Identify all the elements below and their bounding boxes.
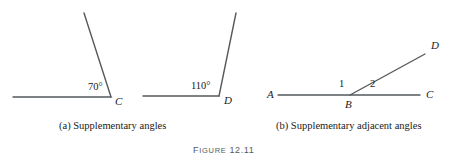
point-label-c-left: C xyxy=(115,96,122,107)
subcaption-b: (b) Supplementary adjacent angles xyxy=(276,120,422,131)
figure-12-11: 70° C 110° D (a) Supplementary angles A … xyxy=(0,0,462,159)
angle-number-1: 1 xyxy=(339,79,344,90)
angle-number-2: 2 xyxy=(370,79,375,90)
angle-measure-110: 110° xyxy=(191,81,211,92)
point-label-d-right: D xyxy=(431,40,439,51)
ray-slanted-vertex-d xyxy=(219,13,236,96)
point-label-a: A xyxy=(267,89,274,100)
subcaption-a: (a) Supplementary angles xyxy=(59,120,166,131)
geometry-drawing xyxy=(0,0,462,159)
figure-caption: FIGURE12.11 xyxy=(193,139,254,157)
point-label-b: B xyxy=(345,99,352,110)
ray-b-to-d xyxy=(350,54,425,95)
point-label-c-right: C xyxy=(426,89,433,100)
figure-caption-number: 12.11 xyxy=(229,145,254,155)
point-label-d-middle: D xyxy=(224,95,232,106)
figure-caption-word-rest: IGURE xyxy=(199,146,226,155)
angle-measure-70: 70° xyxy=(88,82,103,93)
